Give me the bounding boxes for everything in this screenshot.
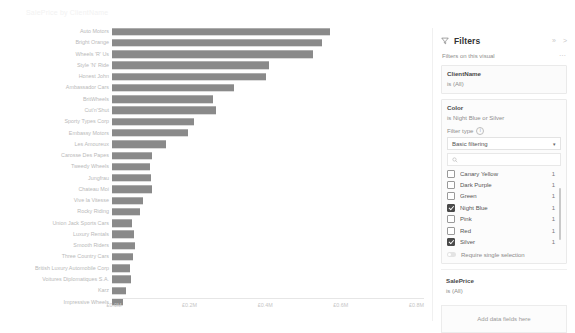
bar[interactable] (112, 276, 131, 283)
bar-row[interactable]: Ambassador Cars (0, 82, 428, 93)
checkbox-icon[interactable] (447, 181, 455, 189)
bar[interactable] (112, 28, 330, 35)
bar[interactable] (112, 231, 134, 238)
checkbox-checked-icon[interactable] (447, 204, 455, 212)
bar-row[interactable]: Rocky Riding (0, 206, 428, 217)
filter-card-color[interactable]: Color is Night Blue or Silver Filter typ… (441, 99, 567, 264)
filter-card-saleprice[interactable]: SalePrice is (All) (441, 275, 567, 298)
bar[interactable] (112, 129, 188, 136)
bar[interactable] (112, 107, 216, 114)
checkbox-icon[interactable] (447, 170, 455, 178)
bar[interactable] (112, 163, 150, 170)
bar-row[interactable]: Tweedy Wheels (0, 161, 428, 172)
page-title: SalePrice by ClientName (26, 9, 108, 16)
filter-field-label: SalePrice (446, 277, 562, 285)
filter-list-item[interactable]: Red1 (447, 225, 561, 236)
bar[interactable] (112, 62, 269, 69)
bar-row[interactable]: Jungfrau (0, 172, 428, 183)
bar-row[interactable]: Cut'n'Shut (0, 105, 428, 116)
axis-tick: £0.8M (409, 302, 424, 308)
bar-row[interactable]: BritWheels (0, 94, 428, 105)
checkbox-icon[interactable] (447, 192, 455, 200)
bar-row[interactable]: Voitures Diplomatiques S.A. (0, 274, 428, 285)
filter-search-input[interactable] (447, 153, 561, 166)
bar-track (112, 251, 428, 262)
filter-list-item[interactable]: Canary Yellow1 (447, 168, 561, 179)
category-label: Luxury Rentals (0, 231, 112, 238)
bar[interactable] (112, 118, 194, 125)
single-selection-toggle[interactable] (447, 252, 456, 257)
bar[interactable] (112, 219, 132, 226)
bar-row[interactable]: Chateau Moi (0, 184, 428, 195)
bar-row[interactable]: Embassy Motors (0, 127, 428, 138)
bar[interactable] (112, 141, 166, 148)
chevron-right-icon[interactable]: > (563, 37, 567, 45)
filter-list-item[interactable]: Night Blue1 (447, 202, 561, 213)
bar-track (112, 240, 428, 251)
bar-row[interactable]: British Luxury Automobile Corp (0, 263, 428, 274)
bar-row[interactable]: Smooth Riders (0, 240, 428, 251)
category-label: Bright Orange (0, 39, 112, 46)
bar[interactable] (112, 265, 130, 272)
filter-list-item[interactable]: Green1 (447, 191, 561, 202)
filters-pane[interactable]: Filters » > Filters on this visual ⋯ Cli… (432, 28, 575, 321)
filter-item-label: Silver (460, 239, 552, 245)
bar-row[interactable]: Union Jack Sports Cars (0, 218, 428, 229)
bar-row[interactable]: Style 'N' Ride (0, 60, 428, 71)
category-label: Embassy Motors (0, 130, 112, 137)
bar[interactable] (112, 174, 151, 181)
category-label: Wheels 'R' Us (0, 51, 112, 58)
bar-row[interactable]: Luxury Rentals (0, 229, 428, 240)
category-label: Rocky Riding (0, 208, 112, 215)
filter-value-list[interactable]: Canary Yellow1Dark Purple1Green1Night Bl… (447, 168, 561, 248)
bar[interactable] (112, 39, 322, 46)
bar[interactable] (112, 50, 313, 57)
filter-state-label: is (All) (446, 287, 562, 295)
category-label: Impressive Wheels (0, 299, 112, 306)
bar-row[interactable]: Bright Orange (0, 37, 428, 48)
bar[interactable] (112, 208, 140, 215)
bar-track (112, 105, 428, 116)
bar[interactable] (112, 73, 266, 80)
bar-row[interactable]: Carosse Des Papes (0, 150, 428, 161)
add-data-fields-dropzone[interactable]: Add data fields here (441, 305, 567, 333)
bar[interactable] (112, 186, 152, 193)
bar-row[interactable]: Karz (0, 285, 428, 296)
checkbox-checked-icon[interactable] (447, 238, 455, 246)
filter-card-clientname[interactable]: ClientName is (All) (441, 65, 567, 94)
bar-row[interactable]: Honest John (0, 71, 428, 82)
bar[interactable] (112, 253, 133, 260)
bar-row[interactable]: Three Country Cars (0, 251, 428, 262)
bar-row[interactable]: Auto Motors (0, 26, 428, 37)
bar-track (112, 218, 428, 229)
bar-row[interactable]: Wheels 'R' Us (0, 49, 428, 60)
pin-icon[interactable]: » (552, 37, 556, 45)
bar[interactable] (112, 197, 143, 204)
category-label: Ambassador Cars (0, 84, 112, 91)
bar[interactable] (112, 84, 234, 91)
info-icon[interactable]: i (476, 127, 484, 135)
filter-list-item[interactable]: Pink1 (447, 214, 561, 225)
filter-type-select[interactable]: Basic filtering ▾ (447, 137, 561, 150)
filter-state-label: is Night Blue or Silver (447, 114, 561, 122)
require-single-selection-row[interactable]: Require single selection (447, 252, 561, 258)
bar-row[interactable]: Vive la Vitesse (0, 195, 428, 206)
bar-track (112, 229, 428, 240)
bar-row[interactable]: Les Amoureux (0, 139, 428, 150)
bar-rows: Auto MotorsBright OrangeWheels 'R' UsSty… (0, 26, 428, 308)
bar[interactable] (112, 152, 152, 159)
dropzone-label: Add data fields here (477, 316, 530, 322)
bar-track (112, 195, 428, 206)
ellipsis-icon[interactable]: ⋯ (559, 52, 566, 60)
bar-row[interactable]: Sporty Types Corp (0, 116, 428, 127)
bar[interactable] (112, 96, 213, 103)
checkbox-icon[interactable] (447, 227, 455, 235)
filter-list-scrollbar[interactable] (559, 188, 562, 240)
filter-list-item[interactable]: Dark Purple1 (447, 179, 561, 190)
bar-chart-visual[interactable]: SalePrice by ClientName Auto MotorsBrigh… (0, 0, 428, 321)
bar[interactable] (112, 287, 126, 294)
filter-list-item[interactable]: Silver1 (447, 236, 561, 247)
bar[interactable] (112, 242, 135, 249)
checkbox-icon[interactable] (447, 215, 455, 223)
filter-item-label: Night Blue (460, 205, 552, 211)
